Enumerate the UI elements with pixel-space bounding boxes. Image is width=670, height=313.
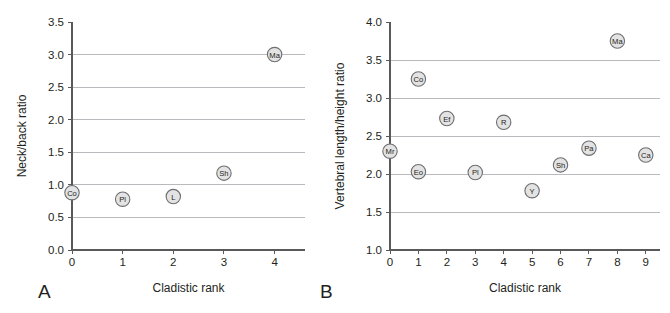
- data-point-label: Mr: [386, 147, 395, 156]
- data-point-label: Sh: [219, 169, 228, 178]
- x-axis-tick-label: 4: [500, 256, 507, 268]
- data-point-label: Pl: [119, 195, 126, 204]
- y-axis-tick-label: 1.0: [48, 179, 64, 191]
- panel-label-b: B: [320, 281, 333, 302]
- x-axis-tick-label: 8: [614, 256, 620, 268]
- y-axis-tick-label: 3.0: [48, 49, 64, 61]
- x-axis-title: Cladistic rank: [489, 281, 562, 295]
- data-point[interactable]: Ca: [639, 148, 653, 162]
- y-axis-tick-label: 0.5: [48, 211, 64, 223]
- y-axis-tick-label: 3.5: [366, 54, 382, 66]
- x-axis-tick-label: 6: [557, 256, 563, 268]
- data-point[interactable]: Y: [525, 184, 539, 198]
- x-axis-tick-label: 4: [271, 256, 278, 268]
- x-axis-tick-label: 2: [444, 256, 450, 268]
- x-axis-tick-label: 3: [472, 256, 478, 268]
- data-point[interactable]: Ef: [440, 111, 454, 125]
- scatter-plot-b: 1.01.52.02.53.03.54.00123456789Cladistic…: [320, 0, 670, 313]
- x-axis-title: Cladistic rank: [152, 281, 225, 295]
- y-axis-tick-label: 2.5: [48, 81, 64, 93]
- data-point-label: Co: [67, 189, 77, 198]
- data-point[interactable]: Pa: [582, 141, 596, 155]
- y-axis-tick-label: 3.5: [48, 16, 64, 28]
- y-axis-tick-label: 2.0: [366, 168, 382, 180]
- data-point[interactable]: Sh: [217, 166, 231, 180]
- y-axis-title: Vertebral length/height ratio: [333, 62, 347, 209]
- y-axis-tick-label: 2.5: [366, 130, 382, 142]
- x-axis-tick-label: 5: [529, 256, 535, 268]
- data-point-label: L: [171, 193, 175, 202]
- data-point[interactable]: Eo: [411, 165, 425, 179]
- scatter-plot-a: 0.00.51.01.52.02.53.03.501234Cladistic r…: [0, 0, 320, 313]
- y-axis-tick-label: 0.0: [48, 244, 64, 256]
- data-point-label: Pl: [472, 168, 479, 177]
- data-point[interactable]: Co: [65, 185, 79, 199]
- data-point-label: Pa: [584, 144, 594, 153]
- y-axis-tick-label: 2.0: [48, 114, 64, 126]
- data-point-label: R: [501, 118, 507, 127]
- data-point-label: Ef: [443, 115, 451, 124]
- x-axis-tick-label: 0: [69, 256, 75, 268]
- x-axis-tick-label: 1: [415, 256, 421, 268]
- panel-b: 1.01.52.02.53.03.54.00123456789Cladistic…: [320, 0, 670, 313]
- y-axis-tick-label: 4.0: [366, 16, 382, 28]
- data-point[interactable]: Pl: [468, 165, 482, 179]
- figure-container: 0.00.51.01.52.02.53.03.501234Cladistic r…: [0, 0, 670, 313]
- x-axis-tick-label: 0: [387, 256, 393, 268]
- data-point[interactable]: R: [496, 115, 510, 129]
- x-axis-tick-label: 7: [586, 256, 592, 268]
- data-point[interactable]: L: [166, 189, 180, 203]
- panel-a: 0.00.51.01.52.02.53.03.501234Cladistic r…: [0, 0, 320, 313]
- data-point-label: Ca: [641, 151, 651, 160]
- data-point-label: Ma: [612, 37, 623, 46]
- data-point[interactable]: Mr: [383, 144, 397, 158]
- panel-label-a: A: [38, 281, 51, 302]
- data-point[interactable]: Pl: [115, 192, 129, 206]
- data-point-label: Eo: [414, 168, 423, 177]
- data-point[interactable]: Sh: [553, 158, 567, 172]
- data-point-label: Sh: [556, 161, 565, 170]
- y-axis-tick-label: 1.5: [48, 146, 64, 158]
- data-point[interactable]: Ma: [267, 47, 281, 61]
- data-point[interactable]: Ma: [610, 34, 624, 48]
- data-point[interactable]: Co: [411, 72, 425, 86]
- y-axis-title: Neck/back ratio: [15, 94, 29, 177]
- x-axis-tick-label: 9: [643, 256, 649, 268]
- y-axis-tick-label: 1.0: [366, 244, 382, 256]
- x-axis-tick-label: 3: [221, 256, 227, 268]
- data-point-label: Y: [530, 187, 535, 196]
- y-axis-tick-label: 3.0: [366, 92, 382, 104]
- data-point-label: Ma: [269, 51, 280, 60]
- data-point-label: Co: [414, 75, 424, 84]
- x-axis-tick-label: 1: [119, 256, 125, 268]
- y-axis-tick-label: 1.5: [366, 206, 382, 218]
- x-axis-tick-label: 2: [170, 256, 176, 268]
